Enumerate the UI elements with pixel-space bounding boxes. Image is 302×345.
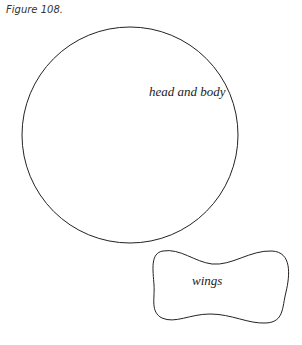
head-and-body-circle: [22, 27, 238, 243]
wings-label: wings: [192, 273, 222, 289]
head-and-body-label: head and body: [149, 84, 226, 100]
pattern-diagram: [0, 0, 302, 345]
